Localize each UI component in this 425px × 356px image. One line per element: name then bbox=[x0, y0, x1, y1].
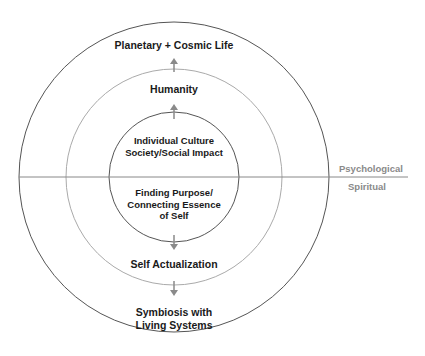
label-line: Society/Social Impact bbox=[125, 147, 223, 159]
label-psychological: Psychological bbox=[339, 163, 403, 174]
label-line: Finding Purpose/ bbox=[127, 187, 220, 199]
label-line: of Self bbox=[127, 210, 220, 222]
arrow-down-icon bbox=[170, 235, 178, 250]
label-finding-purpose: Finding Purpose/ Connecting Essence of S… bbox=[127, 187, 220, 222]
label-individual-culture: Individual Culture Society/Social Impact bbox=[125, 135, 223, 158]
label-humanity: Humanity bbox=[150, 83, 198, 96]
label-line: Connecting Essence bbox=[127, 199, 220, 211]
label-symbiosis-living-systems: Symbiosis with Living Systems bbox=[135, 306, 212, 331]
arrow-up-icon bbox=[170, 104, 178, 119]
label-line: Symbiosis with bbox=[135, 306, 212, 319]
label-line: Living Systems bbox=[135, 319, 212, 332]
arrow-up-icon bbox=[170, 58, 178, 72]
label-spiritual: Spiritual bbox=[348, 181, 386, 192]
label-planetary-cosmic-life: Planetary + Cosmic Life bbox=[115, 39, 234, 52]
label-self-actualization: Self Actualization bbox=[130, 258, 217, 271]
label-line: Individual Culture bbox=[125, 135, 223, 147]
arrow-down-icon bbox=[170, 281, 178, 296]
concentric-diagram bbox=[0, 0, 425, 356]
